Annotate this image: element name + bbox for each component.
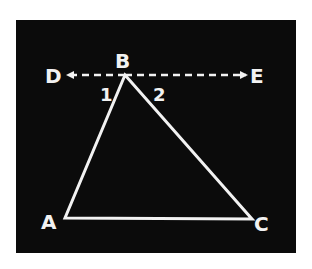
label-a: A bbox=[41, 210, 57, 234]
label-angle-1: 1 bbox=[100, 84, 113, 105]
label-c: C bbox=[254, 212, 269, 236]
label-d: D bbox=[45, 64, 62, 88]
triangle-diagram: D E B 1 2 A C bbox=[0, 0, 312, 269]
label-angle-2: 2 bbox=[153, 84, 166, 105]
label-e: E bbox=[250, 64, 264, 88]
label-b: B bbox=[115, 49, 130, 73]
